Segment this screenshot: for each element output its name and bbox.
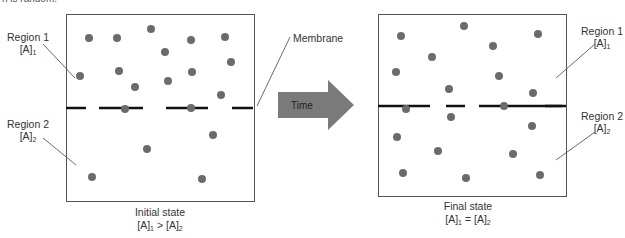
final-state-caption: Final state [A]1 = [A]2: [418, 200, 518, 229]
left-particles: [76, 25, 235, 183]
time-label: Time: [291, 100, 313, 112]
region2-concentration: [A]2: [2, 130, 54, 146]
caption-expression: [A]1 > [A]2: [110, 219, 210, 235]
right-region2-label: Region 2 [A]2: [576, 110, 625, 138]
caption-expression: [A]1 = [A]2: [418, 213, 518, 229]
initial-state-caption: Initial state [A]1 > [A]2: [110, 206, 210, 235]
right-particles: [392, 22, 544, 182]
right-region1-label: Region 1 [A]1: [576, 25, 625, 53]
region2-concentration: [A]2: [576, 122, 625, 138]
caption-title: Initial state: [110, 206, 210, 219]
left-region2-label: Region 2 [A]2: [2, 118, 54, 146]
left-region1-label: Region 1 [A]1: [2, 31, 54, 59]
region2-text: Region 2: [2, 118, 54, 130]
time-arrow: [278, 80, 354, 130]
membrane-label: Membrane: [293, 32, 343, 44]
region1-text: Region 1: [576, 25, 625, 37]
region1-text: Region 1: [2, 31, 54, 43]
region2-text: Region 2: [576, 110, 625, 122]
region1-concentration: [A]1: [2, 43, 54, 59]
caption-title: Final state: [418, 200, 518, 213]
region1-concentration: [A]1: [576, 37, 625, 53]
